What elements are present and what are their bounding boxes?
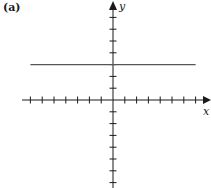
- y-axis-label: y: [118, 0, 126, 13]
- x-axis-label: x: [203, 105, 210, 118]
- y-axis-arrow-icon: [109, 1, 117, 10]
- x-axis-arrow-icon: [203, 96, 211, 104]
- coordinate-plane: x y: [0, 0, 211, 188]
